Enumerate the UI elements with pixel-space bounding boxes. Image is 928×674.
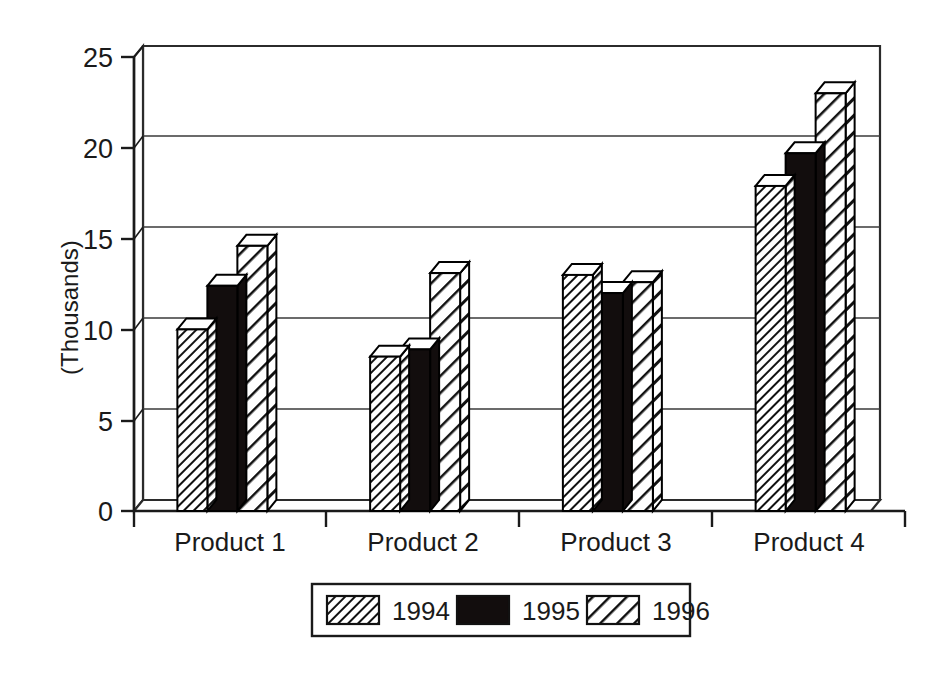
bar-front-face (177, 329, 207, 511)
bar-side-face (267, 235, 276, 511)
bar-front-face (563, 275, 593, 511)
legend-label: 1994 (392, 596, 450, 626)
bar-product-4-1994 (756, 175, 795, 511)
y-tick-label: 20 (83, 134, 113, 164)
y-tick-label: 5 (98, 407, 113, 437)
bar-front-face (370, 357, 400, 511)
x-tick-label: Product 1 (174, 527, 285, 557)
bar-side-face (816, 142, 825, 511)
y-tick-label: 15 (83, 225, 113, 255)
y-tick-label: 10 (83, 316, 113, 346)
bar-chart-figure: 25 20 15 10 5 0 (Thousands) Product 1 Pr… (0, 0, 928, 674)
legend-swatch-solid-black-icon (457, 596, 509, 624)
bar-product-1-1994 (177, 318, 216, 511)
bar-side-face (846, 82, 855, 511)
chart-canvas: 25 20 15 10 5 0 (Thousands) Product 1 Pr… (0, 0, 928, 674)
bar-side-face (653, 271, 662, 511)
bar-side-face (786, 175, 795, 511)
bar-side-face (593, 264, 602, 511)
bar-product-2-1994 (370, 346, 409, 511)
bar-product-3-1994 (563, 264, 602, 511)
y-tick-label: 0 (98, 497, 113, 527)
legend-swatch-hatch-dense-icon (327, 596, 379, 624)
bar-side-face (430, 338, 439, 511)
bar-front-face (756, 186, 786, 511)
y-tick-label: 25 (83, 43, 113, 73)
legend-label: 1995 (522, 596, 580, 626)
bar-side-face (623, 282, 632, 511)
x-tick-label: Product 4 (753, 527, 864, 557)
x-tick-label: Product 2 (367, 527, 478, 557)
bar-side-face (400, 346, 409, 511)
y-axis-title-text: (Thousands) (56, 240, 83, 375)
legend: 1994 1995 1996 (312, 584, 710, 636)
x-tick-label: Product 3 (560, 527, 671, 557)
y-axis-title: (Thousands) (56, 240, 83, 375)
bar-side-face (460, 262, 469, 511)
legend-swatch-hatch-wide-icon (587, 596, 639, 624)
legend-label: 1996 (652, 596, 710, 626)
bar-side-face (237, 275, 246, 511)
bar-side-face (207, 318, 216, 511)
